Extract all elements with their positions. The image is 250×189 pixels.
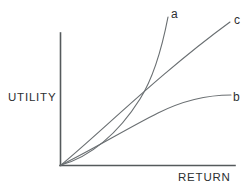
y-axis-label: UTILITY xyxy=(8,92,56,104)
curve-label-c: c xyxy=(234,14,240,26)
curve-a xyxy=(61,17,168,165)
x-axis-label: RETURN xyxy=(178,172,231,184)
utility-return-figure: UTILITY RETURN a c b xyxy=(0,0,250,189)
curve-c xyxy=(61,22,230,165)
curve-label-b: b xyxy=(233,91,240,103)
curve-label-a: a xyxy=(171,8,178,20)
